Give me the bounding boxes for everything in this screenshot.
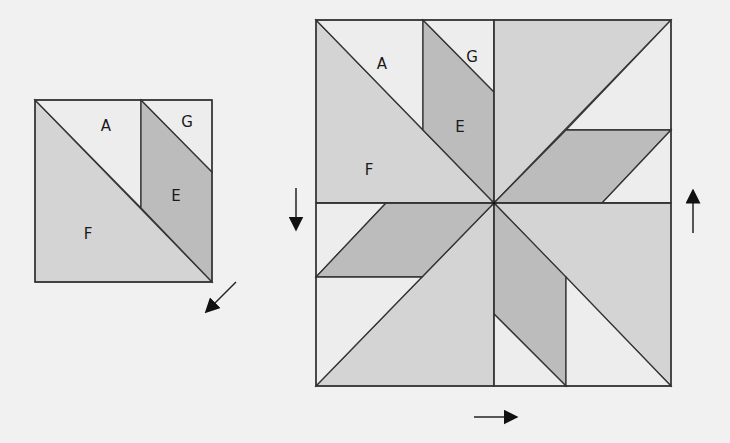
small-label-f: F bbox=[84, 225, 93, 243]
large-label-e: E bbox=[455, 118, 464, 136]
small-label-a: A bbox=[101, 117, 112, 135]
large-label-a: A bbox=[377, 55, 388, 73]
arrow-down-left-icon bbox=[210, 282, 236, 308]
large-block bbox=[316, 20, 671, 386]
quilt-diagram: A G E F A G E F bbox=[0, 0, 730, 443]
large-label-f: F bbox=[365, 161, 374, 179]
large-label-g: G bbox=[466, 48, 478, 66]
small-label-e: E bbox=[171, 187, 180, 205]
small-label-g: G bbox=[181, 113, 193, 131]
